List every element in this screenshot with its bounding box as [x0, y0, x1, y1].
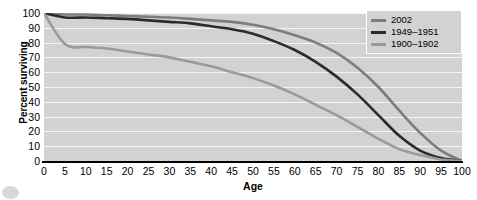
legend: 20021949–19511900–1902: [366, 10, 462, 54]
y-tick-label: 40: [14, 97, 40, 107]
legend-item: 2002: [371, 14, 457, 26]
legend-item: 1949–1951: [371, 26, 457, 38]
x-tick-label: 100: [447, 165, 477, 177]
y-tick-label: 70: [14, 52, 40, 62]
y-tick-label: 20: [14, 126, 40, 136]
legend-swatch-icon: [371, 43, 386, 46]
y-tick-label: 50: [14, 82, 40, 92]
y-tick-label: 90: [14, 23, 40, 33]
legend-label: 1949–1951: [391, 27, 439, 37]
y-tick-label: 80: [14, 38, 40, 48]
y-axis-tick-labels: 0102030405060708090100: [14, 8, 40, 168]
x-axis-line: [42, 161, 463, 163]
legend-swatch-icon: [371, 31, 386, 34]
y-tick-label: 30: [14, 112, 40, 122]
y-tick-label: 100: [14, 8, 40, 18]
legend-label: 2002: [391, 15, 412, 25]
survival-curve-figure: Percent surviving 0102030405060708090100…: [0, 0, 477, 200]
legend-item: 1900–1902: [371, 38, 457, 50]
legend-swatch-icon: [371, 19, 386, 22]
y-tick-label: 10: [14, 141, 40, 151]
legend-label: 1900–1902: [391, 39, 439, 49]
y-tick-label: 60: [14, 67, 40, 77]
x-axis-tick-labels: 0510152025303540455055606570758085909510…: [44, 165, 462, 179]
corner-artifact: [2, 186, 19, 199]
x-axis-title: Age: [44, 180, 462, 192]
